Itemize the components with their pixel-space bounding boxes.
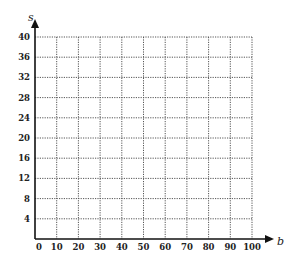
x-tick-label: 70 <box>181 242 193 252</box>
y-tick-label: 4 <box>24 214 30 224</box>
x-tick-label: 90 <box>224 242 236 252</box>
x-axis-label: b <box>277 235 284 248</box>
coordinate-grid-chart: 0102030405060708090100 48121620242832364… <box>0 0 298 265</box>
x-tick-label: 20 <box>72 242 84 252</box>
x-tick-label: 50 <box>138 242 150 252</box>
y-tick-label: 24 <box>18 113 30 123</box>
x-tick-label: 0 <box>36 242 42 252</box>
x-tick-label: 10 <box>51 242 63 252</box>
y-axis-label: s <box>28 11 34 24</box>
x-tick-label: 30 <box>94 242 106 252</box>
y-tick-label: 36 <box>18 52 30 62</box>
x-tick-label: 100 <box>243 242 261 252</box>
x-tick-label: 40 <box>116 242 128 252</box>
x-tick-label: 60 <box>159 242 171 252</box>
x-tick-label: 80 <box>203 242 215 252</box>
y-tick-label: 20 <box>18 133 30 143</box>
x-axis-arrow-icon <box>265 235 274 243</box>
y-tick-label: 12 <box>18 173 30 183</box>
y-tick-label: 28 <box>18 93 30 103</box>
y-tick-label: 8 <box>24 194 30 204</box>
y-tick-label: 16 <box>18 153 30 163</box>
y-tick-label: 32 <box>18 72 30 82</box>
y-axis-tick-labels: 481216202428323640 <box>18 32 30 224</box>
x-axis-tick-labels: 0102030405060708090100 <box>36 242 261 252</box>
y-tick-label: 40 <box>18 32 30 42</box>
